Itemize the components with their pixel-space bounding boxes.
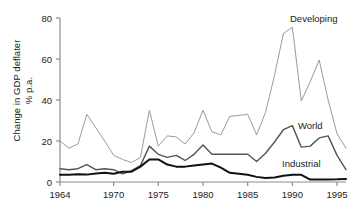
x-tick-label: 1990 [270,189,314,200]
series-line-developing [60,27,346,162]
series-label-world: World [298,120,323,131]
x-tick-label: 1995 [315,189,356,200]
y-tick-label: 60 [26,54,52,65]
y-tick-label: 20 [26,136,52,147]
x-tick-label: 1975 [136,189,180,200]
x-tick-label: 1970 [92,189,136,200]
series-label-developing: Developing [290,13,338,24]
x-tick-label: 1964 [38,189,82,200]
data-series-group [60,27,346,179]
series-label-industrial: Industrial [282,158,321,169]
x-tick-label: 1985 [226,189,270,200]
chart-figure: Change in GDP deflater % p.a. 020406080 … [0,0,356,211]
y-tick-label: 0 [26,177,52,188]
y-tick-label: 40 [26,95,52,106]
chart-canvas [0,0,356,211]
y-tick-label: 80 [26,13,52,24]
x-tick-label: 1980 [181,189,225,200]
